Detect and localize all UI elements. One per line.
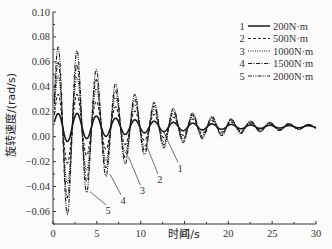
legend-label-3: 1000N·m [273, 46, 313, 57]
curve-annotation-label: 4 [121, 195, 127, 206]
x-tick-label: 0 [50, 228, 55, 239]
legend-label-2: 500N·m [273, 33, 308, 44]
y-tick-label: −0.04 [26, 181, 51, 192]
x-tick-label: 30 [311, 228, 322, 239]
y-tick-label: 0.06 [32, 56, 50, 67]
y-tick-label: 0.08 [32, 31, 50, 42]
y-tick-label: 0.10 [32, 7, 50, 18]
svg-text:4: 4 [239, 58, 245, 69]
x-tick-label: 20 [223, 228, 234, 239]
curve-annotation-label: 1 [177, 163, 182, 174]
y-axis-title: 旋转速度/(rad/s) [4, 73, 18, 157]
svg-text:3: 3 [239, 46, 244, 57]
curve-annotation-label: 3 [140, 185, 145, 196]
y-tick-label: 0.00 [32, 131, 50, 142]
line-chart: 0510152025300.100.080.060.040.020.00−0.0… [0, 0, 332, 249]
x-tick-label: 10 [135, 228, 146, 239]
curve-annotation-label: 2 [157, 174, 162, 185]
y-tick-label: −0.06 [26, 206, 50, 217]
y-tick-label: −0.02 [26, 156, 50, 167]
curve-annotation-label: 5 [106, 205, 111, 216]
legend-label-4: 1500N·m [273, 58, 313, 69]
svg-text:5: 5 [239, 71, 244, 82]
x-tick-label: 5 [94, 228, 99, 239]
svg-text:1: 1 [239, 21, 244, 32]
y-tick-label: 0.02 [32, 106, 50, 117]
x-axis-title: 时间/s [168, 228, 200, 241]
legend-label-1: 200N·m [273, 21, 308, 32]
svg-text:2: 2 [239, 33, 244, 44]
x-tick-label: 25 [267, 228, 278, 239]
legend-label-5: 2000N·m [273, 71, 313, 82]
y-tick-label: 0.04 [32, 81, 51, 92]
legend: 1200N·m2500N·m31000N·m41500N·m52000N·m [239, 21, 313, 82]
